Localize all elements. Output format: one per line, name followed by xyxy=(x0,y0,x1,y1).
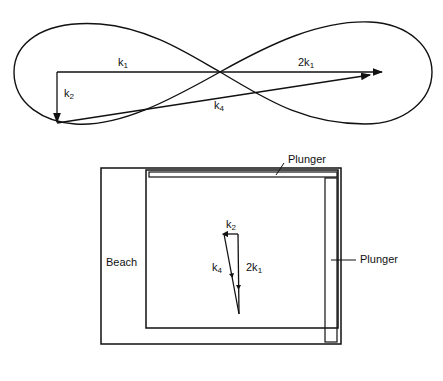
basin-label-2k1: 2k1 xyxy=(246,262,262,275)
label-2k1: 2k1 xyxy=(298,57,314,70)
label-k2: k2 xyxy=(64,88,74,101)
label-beach: Beach xyxy=(106,257,137,268)
basin-label-k2: k2 xyxy=(226,219,236,232)
basin-inner-area xyxy=(146,170,338,328)
label-plunger-right: Plunger xyxy=(360,254,398,265)
label-plunger-top: Plunger xyxy=(288,154,326,165)
label-k1: k1 xyxy=(118,57,128,70)
arrowhead-2k1 xyxy=(236,285,241,290)
plunger-top-strip xyxy=(149,172,337,177)
diagram-canvas xyxy=(0,0,443,381)
label-k4: k4 xyxy=(214,100,224,113)
basin-vector-2k1 xyxy=(238,234,239,314)
plunger-top-leader xyxy=(276,163,284,175)
basin-label-k4: k4 xyxy=(212,262,222,275)
basin-outer-wall xyxy=(101,168,341,344)
